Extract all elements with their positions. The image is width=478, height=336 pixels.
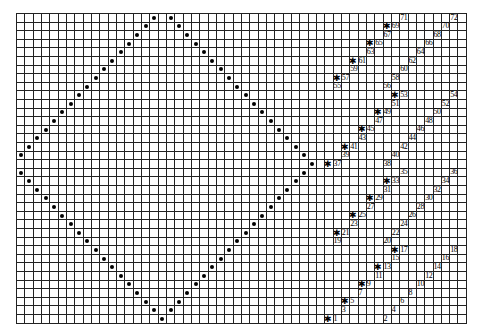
row-number-label: 25 xyxy=(359,211,366,219)
stitch-dot-icon xyxy=(69,102,73,106)
asterisk-marker-icon: ✱ xyxy=(366,194,374,202)
grid-line-horizontal xyxy=(16,288,467,289)
row-number-label: 31 xyxy=(384,186,391,194)
asterisk-marker-icon: ✱ xyxy=(349,57,357,65)
row-number-label: 4 xyxy=(392,306,396,314)
row-number-label: 5 xyxy=(350,297,354,305)
stitch-dot-icon xyxy=(202,50,206,54)
row-number-label: 45 xyxy=(367,125,374,133)
grid-line-horizontal xyxy=(16,314,467,315)
stitch-dot-icon xyxy=(152,308,156,312)
grid-line-horizontal xyxy=(16,133,467,134)
row-number-label: 11 xyxy=(375,272,382,280)
row-number-label: 7 xyxy=(359,289,363,297)
stitch-dot-icon xyxy=(44,196,48,200)
stitch-dot-icon xyxy=(210,265,214,269)
stitch-dot-icon xyxy=(19,171,23,175)
row-number-label: 60 xyxy=(400,65,407,73)
stitch-dot-icon xyxy=(77,231,81,235)
row-number-label: 36 xyxy=(450,168,457,176)
stitch-dot-icon xyxy=(135,291,139,295)
stitch-dot-icon xyxy=(135,33,139,37)
stitch-dot-icon xyxy=(144,300,148,304)
grid-line-horizontal xyxy=(16,151,467,152)
stitch-dot-icon xyxy=(52,205,56,209)
row-number-label: 71 xyxy=(400,14,407,22)
asterisk-marker-icon: ✱ xyxy=(341,143,349,151)
row-number-label: 64 xyxy=(417,48,424,56)
stitch-dot-icon xyxy=(294,145,298,149)
stitch-dot-icon xyxy=(69,222,73,226)
row-number-label: 20 xyxy=(384,237,391,245)
asterisk-marker-icon: ✱ xyxy=(324,160,332,168)
stitch-dot-icon xyxy=(52,119,56,123)
row-number-label: 43 xyxy=(359,134,366,142)
row-number-label: 67 xyxy=(384,31,391,39)
row-number-label: 28 xyxy=(417,203,424,211)
row-number-label: 29 xyxy=(375,194,382,202)
row-number-label: 23 xyxy=(350,220,357,228)
stitch-dot-icon xyxy=(277,128,281,132)
row-number-label: 62 xyxy=(409,57,416,65)
row-number-label: 14 xyxy=(434,263,441,271)
stitch-dot-icon xyxy=(102,257,106,261)
grid-line-horizontal xyxy=(16,211,467,212)
row-number-label: 54 xyxy=(450,91,457,99)
stitch-dot-icon xyxy=(110,265,114,269)
stitch-dot-icon xyxy=(94,76,98,80)
grid-line-horizontal xyxy=(16,22,467,23)
stitch-dot-icon xyxy=(285,136,289,140)
stitch-dot-icon xyxy=(277,196,281,200)
grid-line-horizontal xyxy=(16,108,467,109)
stitch-dot-icon xyxy=(202,274,206,278)
stitch-dot-icon xyxy=(252,222,256,226)
row-number-label: 1 xyxy=(334,315,338,323)
stitch-dot-icon xyxy=(219,257,223,261)
grid-line-horizontal xyxy=(16,47,467,48)
grid-line-horizontal xyxy=(16,254,467,255)
asterisk-marker-icon: ✱ xyxy=(333,229,341,237)
stitch-dot-icon xyxy=(185,33,189,37)
row-number-label: 65 xyxy=(375,39,382,47)
stitch-dot-icon xyxy=(235,85,239,89)
stitch-dot-icon xyxy=(85,85,89,89)
stitch-dot-icon xyxy=(177,300,181,304)
row-number-label: 52 xyxy=(442,100,449,108)
stitch-dot-icon xyxy=(302,153,306,157)
asterisk-marker-icon: ✱ xyxy=(383,22,391,30)
stitch-dot-icon xyxy=(194,282,198,286)
row-number-label: 27 xyxy=(367,203,374,211)
asterisk-marker-icon: ✱ xyxy=(391,91,399,99)
row-number-label: 41 xyxy=(350,143,357,151)
knitting-chart-grid: ✱1234✱5678✱9101112✱13141516✱17181920✱212… xyxy=(16,13,467,324)
stitch-dot-icon xyxy=(260,110,264,114)
row-number-label: 22 xyxy=(392,229,399,237)
asterisk-marker-icon: ✱ xyxy=(324,315,332,323)
grid-line-horizontal xyxy=(16,159,467,160)
stitch-dot-icon xyxy=(227,76,231,80)
row-number-label: 12 xyxy=(425,272,432,280)
stitch-dot-icon xyxy=(144,24,148,28)
stitch-dot-icon xyxy=(235,239,239,243)
grid-line-horizontal xyxy=(16,116,467,117)
grid-line-horizontal xyxy=(16,323,467,324)
stitch-dot-icon xyxy=(44,128,48,132)
row-number-label: 34 xyxy=(442,177,449,185)
stitch-dot-icon xyxy=(160,317,164,321)
row-number-label: 58 xyxy=(392,74,399,82)
grid-line-horizontal xyxy=(16,30,467,31)
asterisk-marker-icon: ✱ xyxy=(374,108,382,116)
asterisk-marker-icon: ✱ xyxy=(341,297,349,305)
stitch-dot-icon xyxy=(269,119,273,123)
row-number-label: 49 xyxy=(384,108,391,116)
row-number-label: 37 xyxy=(334,160,341,168)
stitch-dot-icon xyxy=(285,188,289,192)
row-number-label: 8 xyxy=(409,289,413,297)
grid-line-horizontal xyxy=(16,99,467,100)
grid-line-horizontal xyxy=(16,82,467,83)
stitch-dot-icon xyxy=(169,16,173,20)
stitch-dot-icon xyxy=(244,93,248,97)
stitch-dot-icon xyxy=(260,214,264,218)
stitch-dot-icon xyxy=(294,179,298,183)
row-number-label: 10 xyxy=(417,280,424,288)
